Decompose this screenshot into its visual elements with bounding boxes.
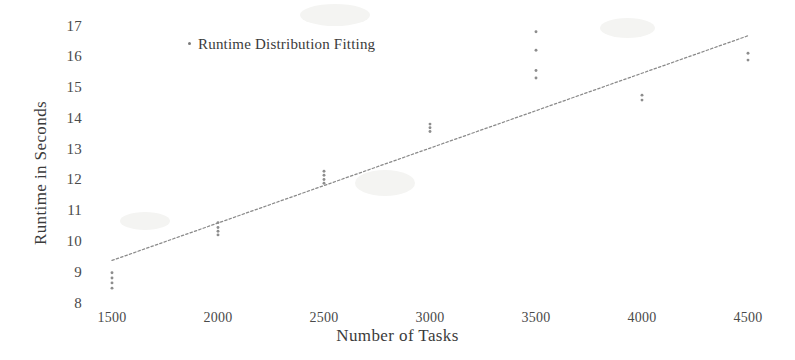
- scatter-point: [111, 281, 114, 284]
- scatter-point: [641, 94, 644, 97]
- y-axis-title: Runtime in Seconds: [31, 78, 51, 268]
- scatter-point: [535, 69, 538, 72]
- x-tick-label-3500: 3500: [506, 311, 566, 325]
- scatter-point: [217, 233, 220, 236]
- y-tick-label-17: 17: [56, 19, 82, 34]
- x-tick-label-1500: 1500: [82, 311, 142, 325]
- scatter-dot-marker-icon: [188, 42, 191, 45]
- scatter-point: [747, 59, 750, 62]
- scatter-point: [217, 221, 220, 224]
- scatter-point: [323, 174, 326, 177]
- x-tick-label-3000: 3000: [400, 311, 460, 325]
- scatter-point: [747, 52, 750, 55]
- scatter-point: [641, 99, 644, 102]
- chart-legend: Runtime Distribution Fitting: [188, 36, 375, 53]
- scatter-point: [429, 126, 432, 129]
- scatter-point: [535, 30, 538, 33]
- scatter-point: [535, 49, 538, 52]
- regression-trendline: [112, 36, 748, 261]
- x-tick-label-2500: 2500: [294, 311, 354, 325]
- plot-area: [0, 0, 795, 360]
- scatter-point: [111, 287, 114, 290]
- x-tick-label-2000: 2000: [188, 311, 248, 325]
- y-tick-label-13: 13: [56, 142, 82, 157]
- y-tick-label-16: 16: [56, 49, 82, 64]
- scatter-point: [323, 182, 326, 185]
- scan-smudge: [600, 18, 655, 38]
- x-tick-label-4500: 4500: [718, 311, 778, 325]
- scatter-point: [535, 76, 538, 79]
- legend-label: Runtime Distribution Fitting: [198, 36, 375, 53]
- x-tick-label-4000: 4000: [612, 311, 672, 325]
- scatter-point: [111, 277, 114, 280]
- y-tick-label-14: 14: [56, 111, 82, 126]
- y-tick-label-11: 11: [56, 203, 82, 218]
- scan-smudge: [120, 212, 170, 230]
- scan-smudge: [300, 4, 370, 26]
- x-axis-title: Number of Tasks: [0, 326, 795, 346]
- scatter-point: [111, 271, 114, 274]
- scatter-point: [323, 178, 326, 181]
- y-tick-label-12: 12: [56, 172, 82, 187]
- scatter-points-group: [111, 30, 750, 289]
- scatter-point: [217, 230, 220, 233]
- scatter-point: [429, 130, 432, 133]
- scatter-point: [429, 123, 432, 126]
- scatter-point: [323, 170, 326, 173]
- y-tick-label-8: 8: [56, 296, 82, 311]
- y-tick-label-9: 9: [56, 265, 82, 280]
- scan-smudge: [355, 170, 415, 196]
- scatter-point: [217, 226, 220, 229]
- y-tick-label-15: 15: [56, 80, 82, 95]
- scatter-chart-figure: Runtime in Seconds 17 16 15 14 13 12 11 …: [0, 0, 795, 360]
- y-tick-label-10: 10: [56, 234, 82, 249]
